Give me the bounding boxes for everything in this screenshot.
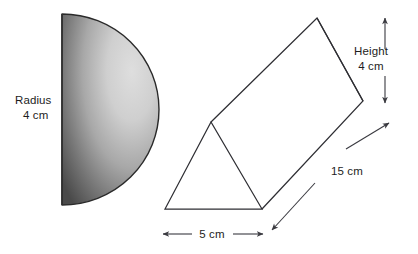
prism-front-triangle-face xyxy=(165,122,262,209)
length-dimension-line-lower xyxy=(272,183,315,230)
half-disc-path xyxy=(62,14,159,205)
height-dimension: Height 4 cm xyxy=(354,18,389,103)
height-label-line2: 4 cm xyxy=(358,60,383,72)
base-label: 5 cm xyxy=(199,228,224,240)
radius-label-line1: Radius xyxy=(15,94,52,106)
length-dimension-line-upper xyxy=(346,123,389,149)
geometry-figure-canvas: Radius 4 cm Height 4 cm 15 cm xyxy=(0,0,418,254)
prism-back-triangle-edge xyxy=(317,18,363,101)
length-label: 15 cm xyxy=(331,165,363,177)
radius-label-line2: 4 cm xyxy=(23,109,48,121)
height-label-line1: Height xyxy=(354,45,389,57)
base-dimension: 5 cm xyxy=(163,228,263,240)
prism-top-rectangular-face xyxy=(211,18,363,209)
radius-label: Radius 4 cm xyxy=(15,94,52,121)
triangular-prism-shape xyxy=(165,18,363,209)
half-disc-shape xyxy=(62,14,159,205)
figure-svg: Radius 4 cm Height 4 cm 15 cm xyxy=(0,0,418,254)
length-dimension: 15 cm xyxy=(272,123,389,230)
